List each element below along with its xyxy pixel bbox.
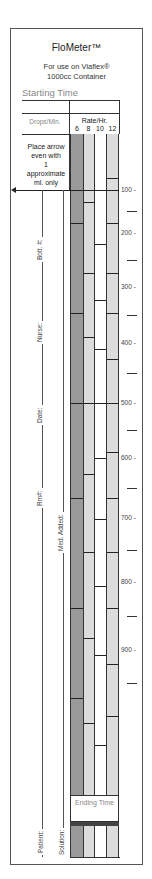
instr-line2: even with (22, 151, 70, 160)
left-guide-line-1 (42, 190, 43, 857)
column-division-line (107, 498, 118, 499)
rate-col-12-label: 12 (106, 125, 119, 132)
scale-mid-tick (127, 430, 137, 431)
column-division-line (84, 638, 94, 639)
scale-label-700: 700 - (121, 514, 136, 521)
column-division-line (84, 552, 94, 553)
scale-mid-tick (127, 211, 137, 212)
column-division-line (84, 202, 94, 203)
column-division-line (95, 519, 106, 520)
arrow-line (13, 190, 119, 191)
column-division-line (95, 458, 106, 459)
room-number-label: Rm#: (36, 488, 43, 508)
column-division-line (95, 586, 106, 587)
column-division-line (107, 313, 118, 314)
rate-col-8-label: 8 (83, 125, 94, 132)
scale-label-900: 900 - (121, 646, 136, 653)
column-division-line (107, 716, 118, 717)
scale-label-200: 200 - (121, 229, 136, 236)
rate-column-10 (94, 134, 106, 857)
instr-line5: ml. only (22, 178, 70, 187)
arrow-head-icon (11, 187, 16, 193)
scale-label-400: 400 - (121, 339, 136, 346)
scale-mid-tick (127, 683, 137, 684)
nurse-label: Nurse: (36, 321, 43, 344)
subtitle-line2: 1000cc Container (10, 72, 143, 81)
column-division-line (107, 608, 118, 609)
instr-line1: Place arrow (22, 142, 70, 151)
rate-column-8 (83, 134, 94, 857)
column-division-line (95, 655, 106, 656)
columns-bottom-line (70, 857, 120, 858)
column-division-line (107, 403, 118, 404)
subtitle-line1: For use on Viaflex® (10, 62, 143, 71)
column-division-line (71, 698, 83, 699)
instr-line4: approximate (22, 169, 70, 178)
column-division-line (95, 300, 106, 301)
scale-mid-tick (127, 488, 137, 489)
rate-column-6 (70, 134, 83, 857)
column-division-line (107, 273, 118, 274)
column-division-line (95, 349, 106, 350)
column-division-line (107, 359, 118, 360)
column-division-line (95, 403, 106, 404)
column-division-line (84, 723, 94, 724)
rate-column-12 (106, 134, 119, 857)
rate-col-6-label: 6 (71, 125, 83, 132)
solution-label: Solution: (58, 828, 65, 857)
patient-label: Patient: (37, 829, 44, 855)
column-division-line (84, 403, 94, 404)
column-division-line (95, 244, 106, 245)
place-arrow-instructions: Place arrow even with 1 approximate ml. … (22, 142, 70, 187)
ending-time-box: Ending Time (70, 795, 119, 822)
column-division-line (71, 223, 83, 224)
ending-time-bar (70, 822, 119, 826)
scale-mid-tick (127, 616, 137, 617)
starting-time-top-line (22, 100, 119, 101)
drops-per-min-label: Drops/Min. (22, 118, 68, 125)
column-division-line (84, 474, 94, 475)
med-added-label: Med. Added: (57, 513, 64, 554)
scale-label-300: 300 - (121, 283, 136, 290)
rate-right-edge (119, 113, 120, 134)
scale-label-800: 800 - (121, 578, 136, 585)
column-division-line (71, 313, 83, 314)
scale-mid-tick (127, 373, 137, 374)
scale-mid-tick (127, 260, 137, 261)
column-division-line (107, 223, 118, 224)
scale-mid-tick (127, 315, 137, 316)
column-division-line (71, 403, 83, 404)
column-division-line (84, 337, 94, 338)
instr-line3: 1 (22, 160, 70, 169)
scale-label-600: 600 - (121, 454, 136, 461)
column-division-line (107, 664, 118, 665)
scale-label-500: 500 - (121, 399, 136, 406)
rate-per-hour-label: Rate/Hr. (70, 117, 119, 124)
column-division-line (107, 452, 118, 453)
bottle-number-label: Bott. #: (36, 237, 43, 262)
column-division-line (71, 498, 83, 499)
starting-time-label: Starting Time (22, 87, 78, 98)
date-label: Date: (36, 405, 43, 425)
column-division-line (107, 552, 118, 553)
flometer-title: FloMeter™ (10, 42, 143, 53)
rate-col-10-label: 10 (94, 125, 106, 132)
scale-label-100: 100 - (121, 186, 136, 193)
column-division-line (71, 608, 83, 609)
column-division-line (107, 178, 118, 179)
column-division-line (95, 745, 106, 746)
column-division-line (84, 273, 94, 274)
scale-mid-tick (127, 550, 137, 551)
header-sep-line (22, 113, 119, 114)
